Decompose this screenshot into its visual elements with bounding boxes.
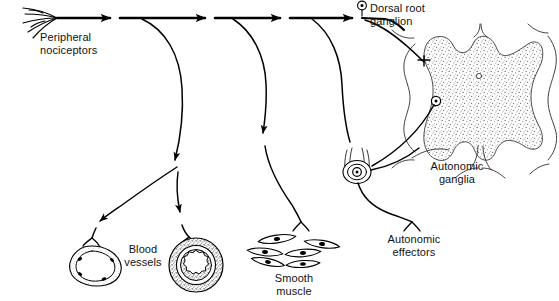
efferent-branch-to-autonomic-ganglion xyxy=(312,19,350,142)
central-canal xyxy=(476,73,481,78)
smooth-muscle-cells xyxy=(247,232,341,268)
efferent-branch-to-blood-vessels xyxy=(92,19,189,238)
ventral-horn-motor-neuron xyxy=(431,96,440,105)
label-autonomic-ganglia: Autonomic ganglia xyxy=(418,160,496,185)
sympathetic-chain-ganglion xyxy=(343,148,371,184)
main-afferent-axon xyxy=(57,18,404,30)
artery xyxy=(169,238,223,292)
postganglionic-fiber xyxy=(358,183,412,222)
dorsal-root-ganglion-cell-body xyxy=(358,1,367,16)
anatomical-figure: Peripheral nociceptors Dorsal root gangl… xyxy=(0,0,559,301)
label-smooth-muscle: Smooth muscle xyxy=(258,272,330,297)
label-dorsal-root-ganglion: Dorsal root ganglion xyxy=(370,2,425,27)
autonomic-ganglion-cell-body xyxy=(353,168,362,177)
label-blood-vessels: Blood vessels xyxy=(112,243,174,268)
spinal-cord-gray-matter xyxy=(424,36,543,160)
label-autonomic-effectors: Autonomic effectors xyxy=(375,233,453,258)
label-peripheral-nociceptors: Peripheral nociceptors xyxy=(40,31,97,56)
efferent-branch-to-smooth-muscle xyxy=(233,19,301,222)
